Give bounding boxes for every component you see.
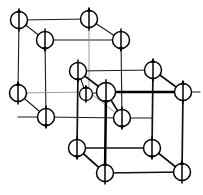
site-front-top-back-left — [70, 60, 87, 83]
edge-front-bottom-front — [105, 172, 182, 173]
site-back-top-front-right — [113, 29, 130, 52]
site-front-top-back-right — [145, 59, 162, 82]
site-front-top-front-right — [175, 81, 192, 104]
site-back-top-back-right — [81, 8, 98, 31]
site-back-bottom-back-left — [10, 82, 27, 105]
spin-up-arrow-icon — [150, 59, 155, 63]
spin-up-arrow-icon — [179, 161, 184, 165]
spin-down-arrow-icon — [43, 124, 48, 128]
edge-front-right-front-vert — [182, 92, 183, 172]
edge-back-bottom-front — [46, 117, 122, 118]
edge-front-right-back-vert — [152, 70, 153, 148]
spin-up-arrow-icon — [180, 81, 185, 85]
lattice-figure — [0, 0, 203, 195]
edge-back-left-front-vert — [45, 40, 46, 117]
site-back-bottom-front-left — [38, 106, 55, 129]
spin-down-arrow-icon — [74, 155, 79, 159]
site-front-bottom-front-right — [174, 161, 191, 184]
spin-up-arrow-icon — [102, 162, 107, 166]
edge-back-right-front-vert — [121, 40, 122, 118]
edge-front-left-back-vert — [77, 71, 78, 148]
site-front-bottom-front-left — [97, 162, 114, 185]
spin-up-arrow-icon — [16, 9, 21, 13]
site-front-bottom-back-right — [144, 137, 161, 160]
spin-down-arrow-icon — [119, 125, 124, 129]
edge-back-top-back — [19, 19, 89, 20]
spin-down-arrow-icon — [75, 78, 80, 82]
site-front-bottom-back-left — [69, 137, 86, 160]
spin-up-arrow-icon — [86, 8, 91, 12]
lattice-diagram — [0, 0, 203, 195]
spin-up-arrow-icon — [84, 85, 88, 88]
spin-up-arrow-icon — [15, 82, 20, 86]
site-back-top-front-left — [37, 29, 54, 52]
spin-down-arrow-icon — [118, 47, 123, 51]
site-front-mid-front — [114, 107, 131, 130]
spin-down-arrow-icon — [42, 47, 47, 51]
site-back-top-back-left — [11, 9, 28, 32]
site-interstitial-center-left — [80, 85, 93, 103]
spin-down-arrow-icon — [149, 155, 154, 159]
site-front-top-front-left — [97, 79, 116, 105]
